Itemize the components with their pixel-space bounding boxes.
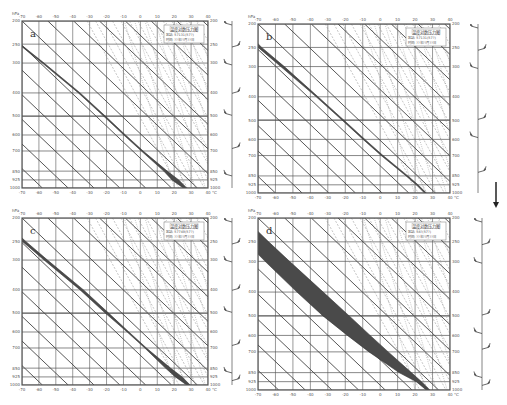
legend-box: 温度对数压力图区站: 57749(57?)时间: ??年??月??日	[164, 222, 204, 240]
skewt-chart: -70-70-60-60-50-50-40-40-30-30-20-20-10-…	[10, 206, 226, 395]
svg-text:925: 925	[210, 177, 218, 182]
svg-text:250: 250	[210, 239, 218, 244]
wind-barb-icon	[482, 343, 490, 349]
panel-label: b	[266, 31, 272, 42]
skewt-panel-b: -70-70-60-60-50-50-40-40-30-30-20-20-10-…	[246, 12, 468, 203]
svg-text:-30: -30	[86, 14, 93, 19]
svg-text:10: 10	[395, 195, 401, 200]
svg-text:°C: °C	[212, 387, 217, 392]
svg-text:温度对数压力图: 温度对数压力图	[170, 223, 198, 230]
svg-text:600: 600	[452, 137, 460, 142]
svg-text:-50: -50	[290, 17, 297, 22]
svg-text:-20: -20	[103, 190, 110, 195]
svg-text:-10: -10	[359, 211, 366, 216]
svg-text:30: 30	[189, 211, 195, 216]
svg-text:850: 850	[452, 173, 460, 178]
svg-text:-70: -70	[255, 195, 262, 200]
svg-text:-70: -70	[255, 392, 262, 397]
svg-text:40: 40	[205, 190, 211, 195]
wind-barb-icon	[232, 87, 240, 93]
svg-text:700: 700	[452, 153, 460, 158]
svg-text:-60: -60	[36, 211, 43, 216]
svg-text:30: 30	[430, 17, 436, 22]
svg-text:850: 850	[248, 173, 256, 178]
wind-barb-icon	[478, 44, 486, 50]
svg-text:600: 600	[248, 333, 256, 338]
svg-text:30: 30	[189, 387, 195, 392]
svg-text:925: 925	[12, 177, 20, 182]
wind-barb-icon	[232, 375, 240, 381]
svg-text:hPa: hPa	[248, 14, 256, 19]
wind-barb-icon	[474, 257, 482, 263]
svg-text:925: 925	[248, 379, 256, 384]
wind-barb-icon	[474, 218, 482, 222]
svg-text:30: 30	[189, 190, 195, 195]
skewt-panel-d: -70-70-60-60-50-50-40-40-30-30-20-20-10-…	[246, 206, 468, 400]
svg-text:0: 0	[379, 392, 382, 397]
svg-text:-10: -10	[120, 387, 127, 392]
svg-text:20: 20	[413, 211, 419, 216]
wind-barb-icon	[224, 218, 232, 222]
wind-barb-icon	[232, 284, 240, 290]
svg-text:700: 700	[12, 148, 20, 153]
svg-text:-10: -10	[359, 17, 366, 22]
svg-text:20: 20	[413, 195, 419, 200]
skewt-chart: -70-70-60-60-50-50-40-40-30-30-20-20-10-…	[10, 9, 226, 198]
svg-text:200: 200	[248, 215, 256, 220]
svg-text:hPa: hPa	[248, 208, 256, 213]
svg-text:-30: -30	[325, 211, 332, 216]
svg-text:400: 400	[248, 94, 256, 99]
svg-text:-40: -40	[69, 387, 76, 392]
svg-text:30: 30	[189, 14, 195, 19]
skewt-panel-a: -70-70-60-60-50-50-40-40-30-30-20-20-10-…	[10, 9, 226, 198]
svg-text:850: 850	[248, 370, 256, 375]
svg-text:300: 300	[248, 259, 256, 264]
svg-text:1000: 1000	[246, 190, 257, 195]
wind-barb-profile-d	[470, 218, 494, 398]
svg-text:20: 20	[172, 14, 178, 19]
svg-text:温度对数压力图: 温度对数压力图	[412, 29, 440, 36]
svg-text:-50: -50	[290, 195, 297, 200]
svg-text:-50: -50	[53, 387, 60, 392]
svg-text:-20: -20	[103, 211, 110, 216]
svg-text:500: 500	[210, 310, 218, 315]
svg-text:-70: -70	[19, 190, 26, 195]
svg-text:400: 400	[248, 289, 256, 294]
svg-text:200: 200	[210, 215, 218, 220]
svg-text:925: 925	[210, 374, 218, 379]
svg-text:1000: 1000	[452, 190, 463, 195]
legend-box: 温度对数压力图区站: 57131(57?)时间: ??年??月??日	[406, 28, 446, 46]
svg-text:30: 30	[430, 211, 436, 216]
panel-label: c	[30, 225, 36, 236]
svg-text:-60: -60	[272, 195, 279, 200]
svg-text:-30: -30	[325, 17, 332, 22]
svg-text:温度对数压力图: 温度对数压力图	[170, 26, 198, 33]
svg-text:850: 850	[12, 169, 20, 174]
svg-text:200: 200	[248, 21, 256, 26]
svg-text:时间: ??年??月??日: 时间: ??年??月??日	[166, 234, 194, 239]
wind-barb-icon	[232, 238, 240, 244]
svg-text:700: 700	[210, 148, 218, 153]
svg-text:°C: °C	[454, 392, 459, 397]
svg-text:40: 40	[447, 195, 453, 200]
svg-text:500: 500	[12, 310, 20, 315]
svg-text:250: 250	[12, 42, 20, 47]
svg-text:300: 300	[12, 257, 20, 262]
svg-text:200: 200	[12, 18, 20, 23]
svg-text:-10: -10	[120, 211, 127, 216]
scale-arrow-icon	[492, 180, 500, 214]
svg-text:500: 500	[452, 118, 460, 123]
svg-text:-10: -10	[359, 195, 366, 200]
svg-text:-30: -30	[325, 392, 332, 397]
svg-text:-10: -10	[120, 190, 127, 195]
svg-text:hPa: hPa	[12, 208, 20, 213]
svg-text:1000: 1000	[246, 387, 257, 392]
svg-text:hPa: hPa	[12, 11, 20, 16]
svg-text:925: 925	[452, 182, 460, 187]
svg-text:300: 300	[452, 64, 460, 69]
svg-text:-60: -60	[36, 14, 43, 19]
svg-text:-50: -50	[53, 190, 60, 195]
svg-text:0: 0	[139, 387, 142, 392]
svg-text:300: 300	[210, 257, 218, 262]
svg-text:-60: -60	[36, 190, 43, 195]
